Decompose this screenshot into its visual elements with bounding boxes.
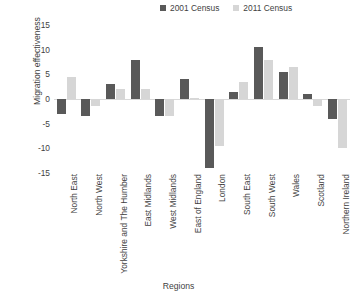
bar-2011 xyxy=(141,89,150,99)
bar-2001 xyxy=(57,99,66,114)
x-axis-tick-label: West Midlands xyxy=(169,174,177,229)
x-axis-label-slot: East of England xyxy=(177,174,202,256)
x-axis-tick-label: North East xyxy=(70,174,78,214)
bar-group xyxy=(177,25,202,173)
bar-2011 xyxy=(67,77,76,99)
bar-2011 xyxy=(116,89,125,99)
bar-2011 xyxy=(239,82,248,99)
x-axis-label-slot: North East xyxy=(54,174,79,256)
bar-group xyxy=(128,25,153,173)
plot-area xyxy=(54,25,350,173)
x-axis-tick-label: Yorkshire and The Humber xyxy=(120,174,128,274)
bar-2001 xyxy=(303,94,312,99)
legend-label-2001-census: 2001 Census xyxy=(170,4,219,12)
bar-2001 xyxy=(180,79,189,99)
bar-group xyxy=(79,25,104,173)
legend-swatch-2001-census xyxy=(160,5,166,11)
x-axis-label-slot: South West xyxy=(251,174,276,256)
bar-2011 xyxy=(91,99,100,106)
bar-2001 xyxy=(254,47,263,99)
x-axis-tick-label: South West xyxy=(268,174,276,217)
bar-2011 xyxy=(289,67,298,99)
x-axis-label-slot: Wales xyxy=(276,174,301,256)
x-axis-label-slot: West Midlands xyxy=(153,174,178,256)
y-axis-tick-label: 5 xyxy=(45,69,50,79)
bar-2011 xyxy=(215,99,224,146)
migration-effectiveness-bar-chart: 2001 Census 2011 Census Migration effect… xyxy=(0,0,357,304)
legend-swatch-2011-census xyxy=(233,5,239,11)
bar-2001 xyxy=(106,84,115,99)
x-axis-tick-label: Northern Ireland xyxy=(342,174,350,235)
legend-label-2011-census: 2011 Census xyxy=(243,4,292,12)
bar-2011 xyxy=(338,99,347,148)
y-axis-tick-label: 0 xyxy=(45,94,50,104)
x-axis-tick-label: Scotland xyxy=(317,174,325,207)
x-axis-label-slot: East Midlands xyxy=(128,174,153,256)
bar-group xyxy=(251,25,276,173)
y-axis-tick-label: -5 xyxy=(43,119,50,129)
bar-group xyxy=(54,25,79,173)
x-axis-label-slot: Scotland xyxy=(301,174,326,256)
bar-2001 xyxy=(131,60,140,99)
bar-2001 xyxy=(155,99,164,116)
x-axis-tick-label: London xyxy=(218,174,226,202)
bar-2001 xyxy=(229,92,238,99)
x-axis-label-slot: South East xyxy=(227,174,252,256)
x-axis-label-slot: Yorkshire and The Humber xyxy=(103,174,128,256)
bar-group xyxy=(103,25,128,173)
x-axis-tick-label: South East xyxy=(243,174,251,215)
bar-2001 xyxy=(81,99,90,116)
bar-group xyxy=(276,25,301,173)
x-axis-label-slot: North West xyxy=(79,174,104,256)
x-axis-tick-labels: North EastNorth WestYorkshire and The Hu… xyxy=(54,174,350,256)
bar-2011 xyxy=(190,98,199,99)
x-axis-tick-label: East of England xyxy=(194,174,202,233)
bar-2001 xyxy=(279,72,288,99)
bar-2011 xyxy=(165,99,174,116)
x-axis-label-slot: Northern Ireland xyxy=(325,174,350,256)
bar-2001 xyxy=(205,99,214,168)
bar-2001 xyxy=(328,99,337,119)
bar-2011 xyxy=(313,99,322,106)
bar-group xyxy=(227,25,252,173)
legend-entry-2001-census: 2001 Census xyxy=(160,4,219,12)
y-axis-tick-label: 15 xyxy=(41,20,50,30)
bar-2011 xyxy=(264,60,273,99)
y-axis-tick-label: 10 xyxy=(41,45,50,55)
bar-group xyxy=(153,25,178,173)
bar-group xyxy=(301,25,326,173)
bar-group xyxy=(202,25,227,173)
x-axis-tick-label: East Midlands xyxy=(144,174,152,227)
y-axis-tick-label: -10 xyxy=(38,143,50,153)
x-axis-tick-label: Wales xyxy=(292,174,300,197)
x-axis-title: Regions xyxy=(0,281,357,291)
y-axis-tick-labels: 151050-5-10-15 xyxy=(28,25,50,173)
x-axis-tick-label: North West xyxy=(95,174,103,216)
chart-legend: 2001 Census 2011 Census xyxy=(160,4,292,12)
y-axis-tick-label: -15 xyxy=(38,168,50,178)
x-axis-label-slot: London xyxy=(202,174,227,256)
bar-group xyxy=(325,25,350,173)
legend-entry-2011-census: 2011 Census xyxy=(233,4,292,12)
